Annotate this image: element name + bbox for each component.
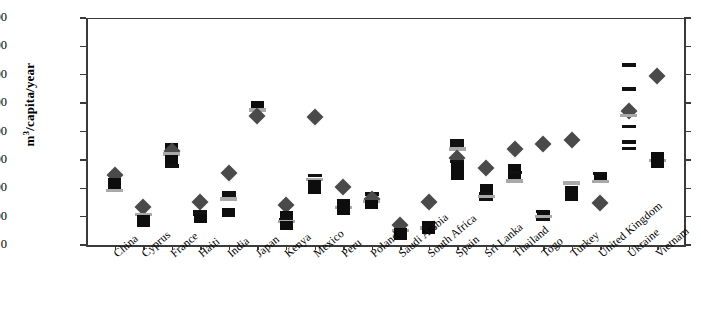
y-tick <box>80 159 86 160</box>
data-point-black-square <box>165 155 178 164</box>
y-tick <box>80 188 86 189</box>
y-axis-title-text: m3/capita/year <box>23 63 38 147</box>
data-point-gray-diamond <box>535 135 552 152</box>
data-point-gray-diamond <box>563 132 580 149</box>
data-point-gray-diamond <box>592 195 609 212</box>
y-axis-title: m3/capita/year <box>21 25 38 185</box>
data-point-black-square <box>451 171 464 180</box>
data-point-gray-diamond <box>506 140 523 157</box>
data-point-black-dash <box>622 63 636 67</box>
data-point-black-dash <box>622 147 636 151</box>
y-tick-label: 3000 <box>0 154 7 164</box>
data-point-black-square <box>222 208 235 217</box>
y-tick <box>80 46 86 47</box>
y-tick-label: 6000 <box>0 69 7 79</box>
y-tick-right <box>684 131 691 132</box>
y-tick-right <box>684 216 691 217</box>
data-point-black-square <box>337 206 350 215</box>
y-tick-right <box>684 46 691 47</box>
chart-figure: m3/capita/year 0100020003000400050006000… <box>0 0 701 328</box>
y-tick <box>80 74 86 75</box>
y-tick <box>80 216 86 217</box>
data-point-gray-diamond <box>220 164 237 181</box>
data-point-gray-diamond <box>478 159 495 176</box>
data-point-black-dash <box>165 164 179 168</box>
y-tick <box>80 131 86 132</box>
data-point-gray-diamond <box>420 194 437 211</box>
data-point-black-dash <box>308 174 322 178</box>
y-tick-right <box>684 17 691 18</box>
y-tick-right <box>684 102 691 103</box>
data-point-black-square <box>137 218 150 227</box>
data-point-gray-diamond <box>649 68 666 85</box>
y-tick-right <box>684 188 691 189</box>
y-tick <box>80 102 86 103</box>
data-point-black-square <box>308 185 321 194</box>
y-tick-right <box>684 244 691 245</box>
data-point-gray-dash <box>106 189 123 192</box>
y-tick-label: 2000 <box>0 182 7 192</box>
y-tick <box>80 17 86 18</box>
data-point-black-square <box>365 200 378 209</box>
y-axis-line <box>86 18 88 245</box>
y-tick-right <box>684 74 691 75</box>
data-point-gray-dash <box>563 181 580 184</box>
plot-area <box>86 18 686 245</box>
data-point-gray-diamond <box>192 193 209 210</box>
y-tick-label: 7000 <box>0 40 7 50</box>
data-point-gray-dash <box>620 114 637 117</box>
data-point-black-square <box>565 192 578 201</box>
data-point-black-dash <box>479 198 493 202</box>
data-point-gray-dash <box>220 197 237 200</box>
data-point-gray-diamond <box>335 179 352 196</box>
data-point-gray-dash <box>506 179 523 182</box>
data-point-gray-diamond <box>306 109 323 126</box>
data-point-black-dash <box>622 140 636 144</box>
y-tick-label: 4000 <box>0 126 7 136</box>
y-tick <box>80 244 86 245</box>
plot-top-border <box>86 18 686 19</box>
y-tick-label: 8000 <box>0 12 7 22</box>
y-tick-label: 0 <box>0 239 7 249</box>
data-point-black-square <box>651 159 664 168</box>
data-point-black-square <box>451 162 464 171</box>
data-point-black-dash <box>622 87 636 91</box>
y-tick-right <box>684 159 691 160</box>
data-point-black-square <box>194 214 207 223</box>
y-tick-label: 5000 <box>0 97 7 107</box>
y-axis-title-exponent: 3 <box>21 131 31 136</box>
y-tick-label: 1000 <box>0 211 7 221</box>
data-point-black-dash <box>450 143 464 147</box>
data-point-gray-dash <box>592 180 609 183</box>
data-point-black-dash <box>622 125 636 129</box>
data-point-black-dash <box>536 218 550 222</box>
data-point-black-square <box>280 221 293 230</box>
